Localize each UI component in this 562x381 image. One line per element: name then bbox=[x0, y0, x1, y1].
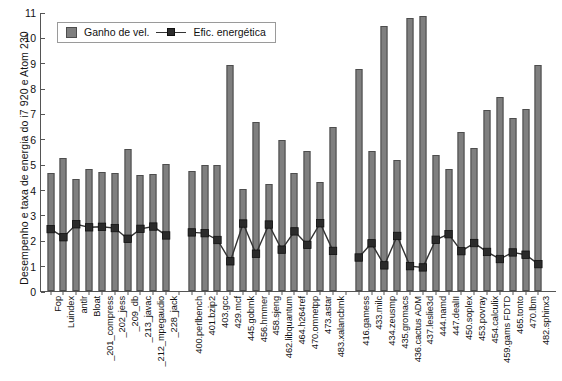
x-axis-tick-label: _209_db bbox=[130, 296, 140, 332]
y-axis-tick-label: 2 bbox=[30, 235, 41, 247]
y-axis-tick-label: 11 bbox=[25, 7, 41, 19]
x-axis-tick-label: 456.hmmer bbox=[259, 296, 269, 342]
line-marker[interactable] bbox=[239, 220, 246, 227]
line-marker[interactable] bbox=[265, 221, 272, 228]
line-marker[interactable] bbox=[535, 260, 542, 267]
line-marker[interactable] bbox=[393, 232, 400, 239]
line-marker[interactable] bbox=[509, 249, 516, 256]
line-marker[interactable] bbox=[137, 225, 144, 232]
x-axis-tick-label: 470.omnetpp bbox=[310, 296, 320, 349]
x-axis-tick-label: 444.namd bbox=[438, 296, 448, 337]
x-axis-tick-label: 447.dealII bbox=[451, 296, 461, 336]
x-axis-tick-label: 416.gamess bbox=[361, 296, 371, 346]
y-axis-tick-label: 3 bbox=[30, 210, 41, 222]
x-axis-tick-label: antlr bbox=[79, 296, 89, 314]
line-marker[interactable] bbox=[419, 264, 426, 271]
x-axis-tick-label: 459.gams FDTD bbox=[502, 296, 512, 363]
line-marker[interactable] bbox=[188, 229, 195, 236]
line-marker[interactable] bbox=[111, 224, 118, 231]
x-axis-tick-label: 462.libquantum bbox=[284, 296, 294, 358]
y-axis-tick-label: 7 bbox=[30, 108, 41, 120]
line-marker[interactable] bbox=[278, 246, 285, 253]
x-axis-tick-label: 473.astar bbox=[323, 296, 333, 334]
line-marker[interactable] bbox=[471, 239, 478, 246]
line-marker[interactable] bbox=[445, 230, 452, 237]
line-marker[interactable] bbox=[329, 247, 336, 254]
line-marker[interactable] bbox=[522, 251, 529, 258]
x-axis-tick-label: _212_mpegaudio bbox=[156, 296, 166, 366]
line-marker[interactable] bbox=[496, 255, 503, 262]
legend-line-marker-icon bbox=[156, 28, 186, 37]
line-marker[interactable] bbox=[483, 248, 490, 255]
line-marker[interactable] bbox=[124, 235, 131, 242]
line-marker[interactable] bbox=[150, 223, 157, 230]
line-marker[interactable] bbox=[291, 228, 298, 235]
line-marker[interactable] bbox=[47, 225, 54, 232]
x-axis-tick-label: 435.gromacs bbox=[400, 296, 410, 349]
line-marker[interactable] bbox=[162, 232, 169, 239]
x-axis-tick-label: 403.gcc bbox=[220, 296, 230, 328]
plot-area: 01234567891011 bbox=[40, 13, 556, 292]
x-axis-tick-label: 454.calculix bbox=[490, 296, 500, 343]
x-axis-tick-label: _213_javac bbox=[143, 296, 153, 343]
line-marker[interactable] bbox=[316, 220, 323, 227]
y-axis-tick-label: 6 bbox=[30, 134, 41, 146]
x-axis-tick-label: 401.bzip2 bbox=[207, 296, 217, 335]
legend-label-line: Efic. energética bbox=[193, 26, 265, 38]
x-axis-tick-label: 464.h264ref bbox=[297, 296, 307, 345]
line-marker[interactable] bbox=[214, 236, 221, 243]
y-axis-tick-label: 5 bbox=[30, 159, 41, 171]
line-marker[interactable] bbox=[368, 240, 375, 247]
x-axis-tick-label: 453.povray bbox=[477, 296, 487, 341]
x-axis-labels: FopLuindexantlrBloat_201_compress_202_je… bbox=[40, 296, 556, 381]
line-marker[interactable] bbox=[73, 221, 80, 228]
x-axis-tick-label: _202_jess bbox=[117, 296, 127, 338]
y-axis-title: Desempenho e taxa de energia do i7 920 e… bbox=[18, 8, 30, 308]
x-axis-tick-label: Fop bbox=[53, 296, 63, 312]
line-series bbox=[41, 13, 557, 292]
x-axis-tick-label: 458.sjeng bbox=[271, 296, 281, 335]
x-axis-tick-label: 465.tonto bbox=[515, 296, 525, 334]
x-axis-tick-label: 433.milc bbox=[374, 296, 384, 330]
chart-legend: Ganho de vel. Efic. energética bbox=[57, 22, 276, 43]
line-marker[interactable] bbox=[98, 223, 105, 230]
y-axis-tick-label: 8 bbox=[30, 83, 41, 95]
line-marker[interactable] bbox=[304, 241, 311, 248]
x-axis-tick-label: Bloat bbox=[92, 296, 102, 317]
y-axis-tick-label: 9 bbox=[30, 58, 41, 70]
y-axis-tick-label: 10 bbox=[24, 32, 41, 44]
line-marker[interactable] bbox=[458, 247, 465, 254]
line-path bbox=[51, 224, 167, 238]
x-axis-tick-label: 434.zeusmp bbox=[387, 296, 397, 346]
y-axis-tick-label: 4 bbox=[30, 185, 41, 197]
x-axis-tick-label: _228_jack bbox=[169, 296, 179, 338]
legend-label-bars: Ganho de vel. bbox=[84, 26, 149, 38]
line-marker[interactable] bbox=[227, 258, 234, 265]
line-marker[interactable] bbox=[432, 236, 439, 243]
line-marker[interactable] bbox=[252, 250, 259, 257]
line-path bbox=[192, 223, 333, 261]
x-axis-tick-label: 470.lbm bbox=[528, 296, 538, 328]
line-marker[interactable] bbox=[201, 229, 208, 236]
x-axis-tick-label: 482.sphinx3 bbox=[541, 296, 551, 345]
line-marker[interactable] bbox=[355, 254, 362, 261]
x-axis-tick-label: 437.leslie3d bbox=[425, 296, 435, 344]
x-axis-tick-label: 400.perlbench bbox=[194, 296, 204, 354]
x-axis-tick-label: 445.gobmk bbox=[246, 296, 256, 341]
line-marker[interactable] bbox=[406, 262, 413, 269]
x-axis-tick-label: 436.cactus ADM bbox=[413, 296, 423, 362]
line-marker[interactable] bbox=[60, 234, 67, 241]
line-marker[interactable] bbox=[381, 262, 388, 269]
legend-bar-swatch bbox=[66, 27, 77, 38]
x-axis-tick-label: _201_compress bbox=[105, 296, 115, 361]
y-axis-tick-label: 1 bbox=[30, 261, 41, 273]
x-axis-tick-label: 429.mcf bbox=[233, 296, 243, 328]
chart-container: Desempenho e taxa de energia do i7 920 e… bbox=[0, 0, 562, 381]
x-axis-tick-label: 450.soplex bbox=[464, 296, 474, 340]
x-axis-tick-label: 483.xalancbmk bbox=[336, 296, 346, 357]
line-marker[interactable] bbox=[85, 224, 92, 231]
x-axis-tick-label: Luindex bbox=[66, 296, 76, 328]
